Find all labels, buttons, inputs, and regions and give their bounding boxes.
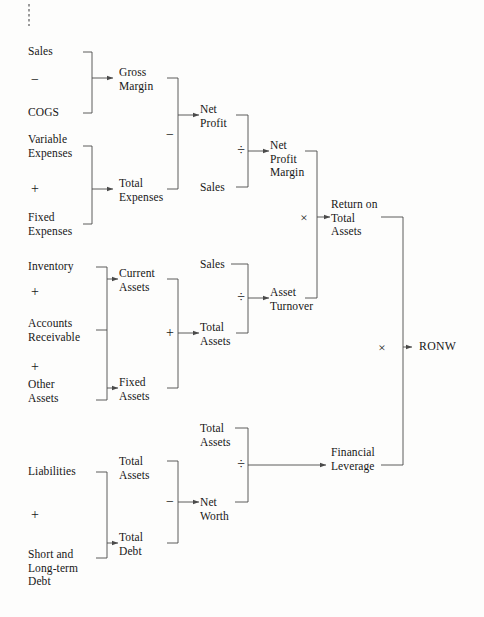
operator-divide-sales-assets: ÷ [234, 291, 248, 305]
operator-times-margin-turnover: × [297, 211, 311, 225]
node-inventory: Inventory [28, 260, 74, 274]
node-total-debt: Total Debt [119, 531, 143, 558]
node-cogs: COGS [28, 106, 59, 120]
node-ronw: RONW [419, 340, 456, 354]
node-sales-3: Sales [200, 258, 225, 272]
operator-plus-liabilities: + [28, 508, 42, 522]
operator-minus-gross-total: − [163, 128, 177, 142]
node-current-assets: Current Assets [119, 267, 155, 294]
node-net-profit: Net Profit [200, 103, 227, 130]
operator-plus-assets-2: + [28, 360, 42, 374]
node-short-long-term-debt: Short and Long-term Debt [28, 548, 78, 589]
operator-divide-assets-networth: ÷ [234, 458, 248, 472]
operator-minus-sales-cogs: − [28, 73, 42, 87]
operator-plus-assets-1: + [28, 285, 42, 299]
node-fixed-expenses: Fixed Expenses [28, 211, 72, 238]
operator-plus-total-assets: + [163, 326, 177, 340]
node-accounts-receivable: Accounts Receivable [28, 317, 80, 344]
node-total-assets-3: Total Assets [119, 455, 150, 482]
node-total-assets-1: Total Assets [200, 321, 231, 348]
node-liabilities: Liabilities [28, 465, 76, 479]
node-variable-expenses: Variable Expenses [28, 133, 72, 160]
node-net-worth: Net Worth [200, 496, 229, 523]
operator-plus-expenses: + [28, 182, 42, 196]
node-net-profit-margin: Net Profit Margin [270, 139, 304, 180]
node-total-expenses: Total Expenses [119, 177, 163, 204]
node-sales-1: Sales [28, 45, 53, 59]
node-asset-turnover: Asset Turnover [270, 286, 313, 313]
operator-times-rota-leverage: × [375, 341, 389, 355]
node-other-assets: Other Assets [28, 378, 59, 405]
node-total-assets-4: Total Assets [200, 422, 231, 449]
node-sales-2: Sales [200, 181, 225, 195]
ronw-decomposition-diagram: Sales − COGS Variable Expenses + Fixed E… [0, 0, 484, 617]
node-return-on-total-assets: Return on Total Assets [331, 198, 378, 239]
diagram-connectors [0, 0, 484, 617]
node-financial-leverage: Financial Leverage [331, 446, 375, 473]
operator-divide-net-profit-sales: ÷ [234, 144, 248, 158]
operator-minus-assets-debt: − [163, 495, 177, 509]
node-gross-margin: Gross Margin [119, 66, 153, 93]
node-fixed-assets: Fixed Assets [119, 376, 150, 403]
